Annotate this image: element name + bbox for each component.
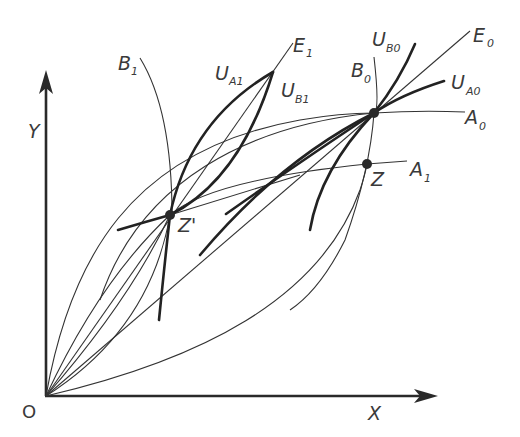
b1-label: B bbox=[118, 52, 131, 74]
ua1-label: U bbox=[215, 62, 229, 84]
e0-ray bbox=[46, 31, 470, 396]
y-axis-label: Y bbox=[28, 120, 41, 142]
e1-label: E bbox=[293, 34, 305, 56]
z-prime-point bbox=[165, 210, 175, 220]
b0-sub: 0 bbox=[364, 73, 371, 86]
a1-label: A bbox=[408, 158, 423, 180]
ub0-label: U bbox=[372, 28, 386, 50]
a0-sub: 0 bbox=[479, 120, 486, 133]
upper-equilibrium-point bbox=[369, 108, 379, 118]
z-label: Z bbox=[370, 168, 385, 190]
ua0-label: U bbox=[451, 71, 465, 93]
ub0-sub: B0 bbox=[386, 42, 401, 55]
e1-sub: 1 bbox=[306, 47, 313, 60]
origin-label: O bbox=[22, 401, 36, 422]
b1-curve bbox=[140, 58, 172, 215]
a0-label: A bbox=[463, 106, 478, 128]
ub1-label: U bbox=[281, 79, 295, 101]
x-axis-label: X bbox=[367, 402, 382, 424]
ua1-sub: A1 bbox=[228, 75, 244, 88]
ub1-sub: B1 bbox=[295, 93, 310, 106]
b1-sub: 1 bbox=[131, 65, 138, 78]
economics-diagram: Y X O Z' Z B 1 U A1 E 1 U B1 B 0 U B0 E … bbox=[0, 0, 520, 437]
a0-curve bbox=[100, 111, 465, 300]
e0-label: E bbox=[473, 24, 485, 46]
e0-sub: 0 bbox=[487, 37, 494, 50]
ua1-long-segment bbox=[200, 113, 374, 255]
z-prime-label: Z' bbox=[177, 214, 196, 236]
ua0-sub: A0 bbox=[465, 85, 481, 98]
a1-sub: 1 bbox=[424, 172, 431, 185]
b0-label: B bbox=[351, 59, 364, 81]
